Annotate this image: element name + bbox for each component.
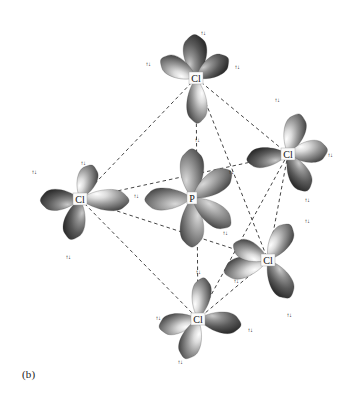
- atom-cl-right: Cl: [281, 148, 295, 160]
- atom-label-text: Cl: [193, 314, 203, 325]
- electron-pair-label: ↑↓: [196, 269, 202, 275]
- atom-label-text: Cl: [75, 194, 85, 205]
- electron-pair-label: ↑↓: [81, 160, 87, 166]
- electron-pair-label: ↑↓: [178, 359, 184, 365]
- lobe-shape: [144, 187, 192, 211]
- atom-cl-left: Cl: [73, 193, 87, 205]
- molecule-scene: PClClClClCl ↑↓↑↓↑↓↑↓↑↓↑↓↑↓↑↓↑↓↑↓↑↓↑↓↑↓↑↓…: [0, 0, 362, 402]
- electron-pair-label: ↑↓: [134, 193, 140, 199]
- atom-cl-lower-right: Cl: [261, 254, 275, 266]
- electron-pair-label: ↑↓: [229, 169, 235, 175]
- atom-label-text: P: [189, 193, 195, 204]
- atom-cl-top: Cl: [189, 72, 203, 84]
- orbital-lobe: [186, 78, 208, 124]
- electron-pair-label: ↑↓: [235, 64, 241, 70]
- electron-pair-label: ↑↓: [305, 218, 311, 224]
- electron-pair-label: ↑↓: [234, 278, 240, 284]
- orbital-diagram-figure: PClClClClCl ↑↓↑↓↑↓↑↓↑↓↑↓↑↓↑↓↑↓↑↓↑↓↑↓↑↓↑↓…: [0, 0, 362, 402]
- electron-pair-label: ↑↓: [223, 230, 229, 236]
- atom-label-text: Cl: [263, 255, 273, 266]
- electron-pair-label: ↑↓: [305, 197, 311, 203]
- electron-pair-label: ↑↓: [156, 315, 162, 321]
- atom-cl-bottom: Cl: [191, 313, 205, 325]
- atom-label-text: Cl: [191, 73, 201, 84]
- bond-line: [196, 78, 288, 154]
- electron-pair-label: ↑↓: [248, 327, 254, 333]
- electron-pair-label: ↑↓: [328, 152, 334, 158]
- atom-label-text: Cl: [283, 149, 293, 160]
- orbital-lobe: [144, 187, 192, 211]
- electron-pair-label: ↑↓: [287, 312, 293, 318]
- electron-pair-label: ↑↓: [146, 61, 152, 67]
- electron-pair-label: ↑↓: [201, 30, 207, 36]
- figure-caption: (b): [22, 368, 35, 380]
- lobe-shape: [186, 78, 208, 124]
- electron-pair-label: ↑↓: [195, 137, 201, 143]
- electron-pair-label: ↑↓: [32, 169, 38, 175]
- electron-pair-label: ↑↓: [66, 254, 72, 260]
- bond-line: [80, 199, 198, 319]
- atom-p-center: P: [187, 192, 197, 204]
- electron-pair-label: ↑↓: [275, 97, 281, 103]
